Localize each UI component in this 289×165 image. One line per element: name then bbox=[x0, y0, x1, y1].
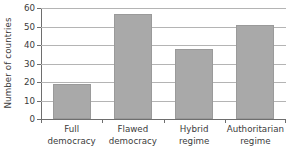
y-tick-mark bbox=[37, 8, 41, 9]
y-tick-mark bbox=[37, 82, 41, 83]
x-tick-mark bbox=[102, 119, 103, 123]
y-tick-label: 60 bbox=[24, 3, 35, 13]
x-tick-mark bbox=[285, 119, 286, 123]
x-axis-label-line: regime bbox=[219, 136, 289, 148]
y-tick-label: 20 bbox=[24, 77, 35, 87]
x-tick-mark bbox=[41, 119, 42, 123]
x-axis-label-line: Authoritarian bbox=[219, 124, 289, 136]
bar-chart: Number of countries 0102030405060 Fullde… bbox=[0, 0, 289, 165]
x-tick-mark bbox=[225, 119, 226, 123]
y-axis-title: Number of countries bbox=[0, 0, 16, 126]
y-tick-mark bbox=[37, 64, 41, 65]
y-tick-mark bbox=[37, 45, 41, 46]
y-tick-label: 40 bbox=[24, 40, 35, 50]
y-tick-label: 0 bbox=[29, 114, 35, 124]
bar bbox=[114, 14, 152, 119]
y-axis-title-text: Number of countries bbox=[3, 17, 13, 108]
y-tick-label: 50 bbox=[24, 22, 35, 32]
y-tick-mark bbox=[37, 27, 41, 28]
bar bbox=[53, 84, 91, 119]
gridline bbox=[41, 8, 286, 9]
y-tick-label: 10 bbox=[24, 96, 35, 106]
y-tick-mark bbox=[37, 101, 41, 102]
plot-area bbox=[41, 8, 286, 119]
bar bbox=[236, 25, 274, 119]
x-axis-labels: FulldemocracyFlaweddemocracyHybridregime… bbox=[41, 124, 286, 165]
bar bbox=[175, 49, 213, 119]
x-axis-label: Authoritarianregime bbox=[219, 124, 289, 147]
x-tick-mark bbox=[164, 119, 165, 123]
y-tick-label: 30 bbox=[24, 59, 35, 69]
y-axis-tick-labels: 0102030405060 bbox=[16, 0, 37, 126]
